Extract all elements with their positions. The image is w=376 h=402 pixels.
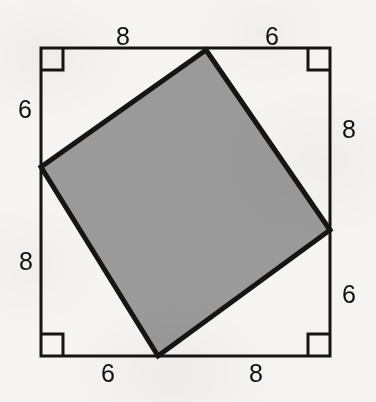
right-angle-mark-top-right: [308, 48, 330, 70]
label-right-upper: 8: [331, 117, 367, 142]
right-angle-mark-bottom-left: [41, 334, 63, 356]
label-top-right: 6: [254, 24, 290, 49]
label-left-lower: 8: [8, 249, 44, 274]
geometry-figure-container: 8 6 8 6 6 8 6 8: [0, 0, 376, 402]
label-right-lower: 6: [331, 282, 367, 307]
label-left-upper: 6: [7, 97, 43, 122]
right-angle-mark-top-left: [41, 48, 63, 70]
inner-shaded-square: [41, 50, 330, 356]
geometry-diagram: [0, 0, 376, 402]
label-bottom-left: 6: [90, 361, 126, 386]
right-angle-mark-bottom-right: [308, 334, 330, 356]
label-top-left: 8: [105, 24, 141, 49]
label-bottom-right: 8: [238, 361, 274, 386]
